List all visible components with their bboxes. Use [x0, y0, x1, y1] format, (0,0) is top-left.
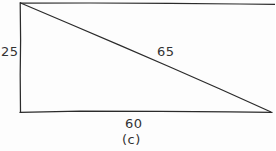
figure-caption: (c) — [122, 133, 141, 146]
top-edge-line — [21, 3, 276, 4]
label-left-side: 25 — [1, 45, 19, 58]
label-hypotenuse: 65 — [157, 45, 175, 58]
bottom-edge-line — [20, 111, 272, 112]
figure-container: 25 65 60 (c) — [0, 0, 275, 151]
label-bottom-side: 60 — [125, 117, 143, 130]
hypotenuse-line — [21, 3, 271, 112]
